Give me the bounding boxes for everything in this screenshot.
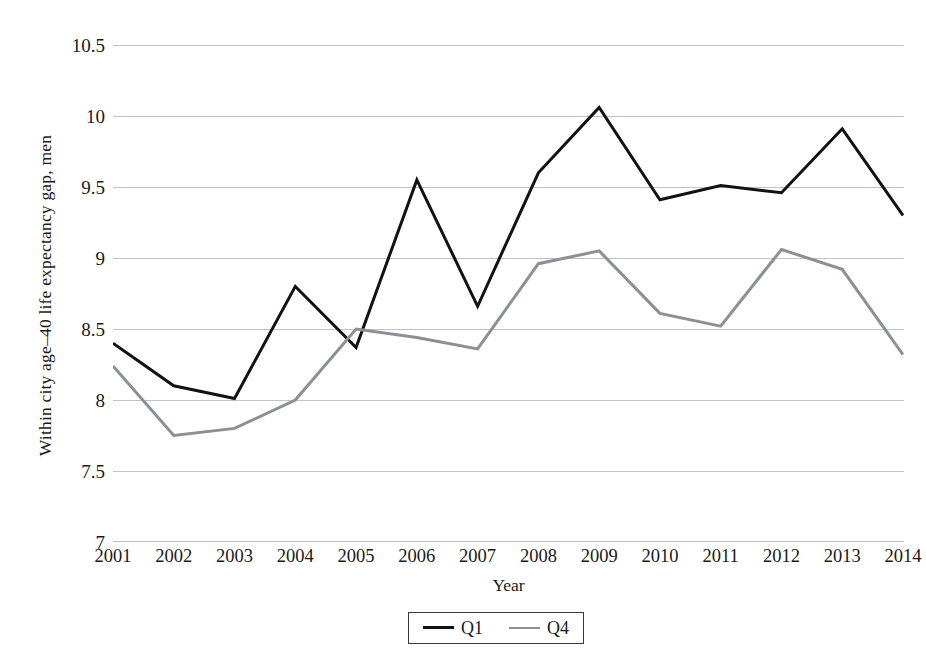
x-axis-tick-labels: 2001200220032004200520062007200820092010… [113,545,904,573]
chart-legend: Q1Q4 [408,612,584,644]
y-tick-label: 7.5 [45,462,105,481]
x-tick-label: 2014 [863,545,926,567]
series-line-q1 [113,107,903,398]
y-tick-label: 8 [45,391,105,410]
series-line-q4 [113,249,903,435]
y-tick-label: 9.5 [45,178,105,197]
y-tick-label: 9 [45,249,105,268]
y-tick-label: 10.5 [45,36,105,55]
plot-canvas [113,45,904,542]
y-tick-label: 8.5 [45,320,105,339]
y-tick-label: 10 [45,107,105,126]
legend-label: Q4 [547,619,569,637]
legend-label: Q1 [461,619,483,637]
y-axis-tick-labels: 77.588.599.51010.5 [43,45,105,542]
legend-line-swatch-icon [423,626,454,629]
legend-entry-q4: Q4 [509,619,569,637]
plot-area [113,45,904,542]
legend-entry-q1: Q1 [423,619,483,637]
x-axis-title: Year [113,575,904,596]
legend-line-swatch-icon [509,627,540,629]
